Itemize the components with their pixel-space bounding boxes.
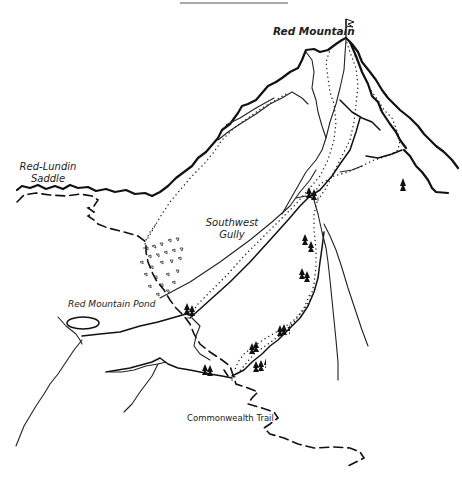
label-red-mountain: Red Mountain: [273, 25, 355, 37]
label-southwest-line1: Southwest: [200, 217, 264, 229]
trail-spur: [224, 370, 228, 376]
tree-icon: [184, 178, 406, 379]
stream-west: [16, 340, 82, 446]
label-southwest-gully: Southwest Gully: [200, 217, 264, 241]
label-gully-line2: Gully: [200, 229, 264, 241]
pond-outline: [67, 317, 99, 329]
ridge-ledge: [218, 92, 308, 140]
route-gully-east: [318, 40, 358, 200]
label-red-mountain-pond: Red Mountain Pond: [68, 299, 156, 309]
route-lower-ridge: [232, 294, 310, 380]
stream-pond-outlet: [58, 317, 82, 344]
route-saddle-link: [144, 224, 156, 248]
east-ridge: [346, 38, 458, 168]
east-slope-ridge: [232, 232, 324, 376]
label-red-lundin-line1: Red-Lundin: [18, 161, 78, 173]
gully-rib: [340, 100, 380, 130]
east-col-ridge: [404, 150, 448, 193]
route-east-traverse: [312, 54, 400, 196]
route-gully-west: [188, 50, 336, 318]
col-ledge: [366, 150, 402, 158]
label-saddle-line2: Saddle: [18, 173, 78, 185]
lower-ridge-line: [106, 358, 232, 378]
commonwealth-trail-path: [17, 193, 364, 466]
ledge-segment: [340, 166, 362, 172]
label-red-lundin-saddle: Red-Lundin Saddle: [18, 161, 78, 185]
label-commonwealth-trail: Commonwealth Trail: [187, 413, 274, 423]
bank-west: [192, 318, 210, 360]
route-map: Red Mountain Red-Lundin Saddle Southwest…: [0, 0, 462, 480]
east-inner-ridge: [350, 42, 406, 148]
